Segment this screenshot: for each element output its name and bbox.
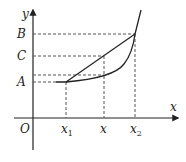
origin-label: O xyxy=(20,122,30,136)
y-axis-label: y xyxy=(21,7,29,21)
dashed-guides xyxy=(33,34,135,118)
label-x: x xyxy=(100,122,107,136)
label-x2: x2 xyxy=(130,122,142,138)
label-B: B xyxy=(16,27,26,41)
function-curve xyxy=(56,10,141,82)
function-graph-diagram: y x O B C A x1 x x2 xyxy=(0,0,186,162)
label-A: A xyxy=(16,75,26,89)
label-C: C xyxy=(17,49,26,63)
x-axis-label: x xyxy=(170,100,177,114)
label-x1: x1 xyxy=(61,122,73,138)
